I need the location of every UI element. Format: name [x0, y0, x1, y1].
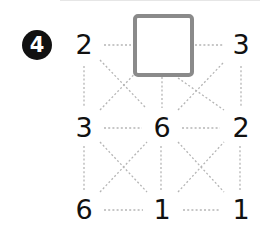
cell-r2c2: 6 — [147, 111, 177, 145]
cell-r3c3: 1 — [226, 193, 256, 226]
cell-r1c1: 2 — [69, 28, 99, 62]
answer-box[interactable] — [133, 14, 194, 77]
cell-r3c1: 6 — [69, 193, 99, 226]
cell-r2c1: 3 — [69, 111, 99, 145]
cell-r2c3: 2 — [226, 111, 256, 145]
cell-r1c3: 3 — [226, 28, 256, 62]
dotted-connector-lines — [0, 0, 264, 226]
cell-r3c2: 1 — [147, 193, 177, 226]
